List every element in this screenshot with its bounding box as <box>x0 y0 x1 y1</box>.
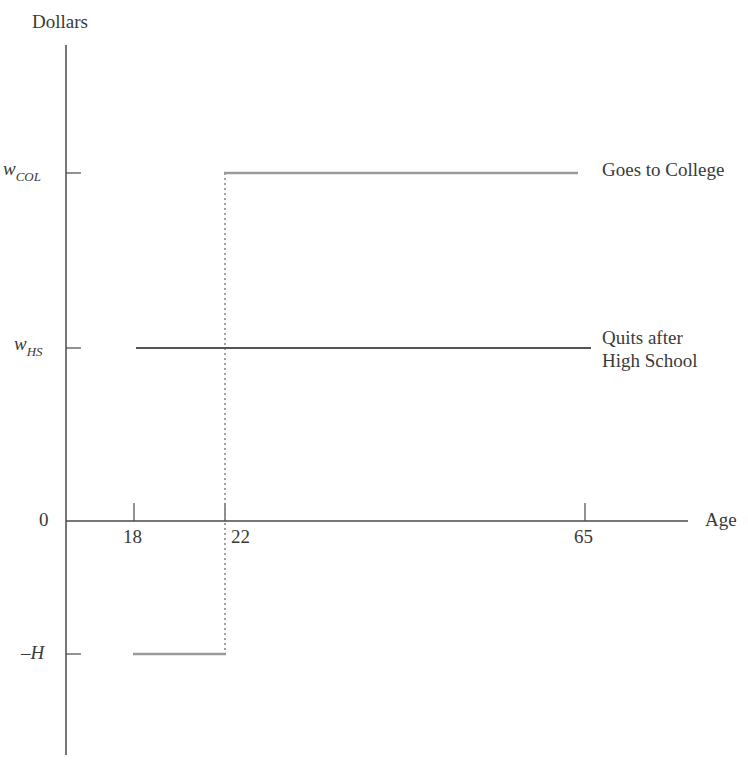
y-axis-title: Dollars <box>32 11 88 33</box>
series-label-college: Goes to College <box>602 159 724 181</box>
x-label-18: 18 <box>123 526 142 548</box>
y-label-whs: wHS <box>14 333 43 355</box>
y-label-zero: 0 <box>39 509 49 531</box>
series-label-hs-line2: High School <box>602 350 698 372</box>
y-label-whs-main: w <box>14 333 27 354</box>
y-label-whs-sub: HS <box>27 344 43 359</box>
y-label-wcol: wCOL <box>3 158 41 180</box>
x-label-65: 65 <box>574 526 593 548</box>
series-label-hs-line1: Quits after <box>602 327 683 349</box>
chart-canvas <box>0 0 748 766</box>
y-label-wcol-sub: COL <box>16 169 41 184</box>
x-axis-title: Age <box>705 509 737 531</box>
x-label-22: 22 <box>231 526 250 548</box>
y-label-wcol-main: w <box>3 158 16 179</box>
y-label-negh: –H <box>21 642 44 664</box>
